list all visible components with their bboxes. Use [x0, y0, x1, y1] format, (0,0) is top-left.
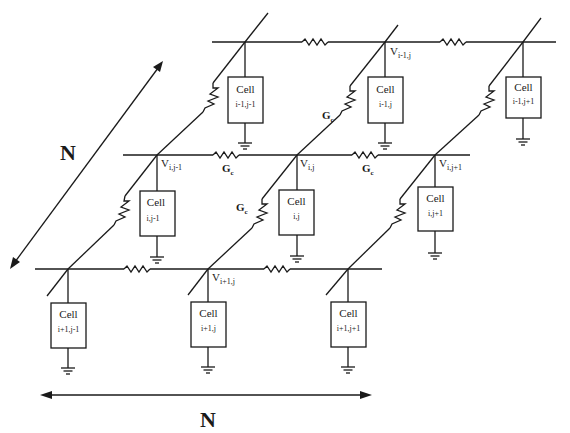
- horizontal-dimension-arrow: [40, 391, 372, 399]
- node-voltage-i+1-j: Vi+1,j: [212, 271, 235, 286]
- svg-text:Gc: Gc: [236, 201, 248, 216]
- ground-icon: [61, 368, 75, 374]
- resistor-icon: [352, 152, 378, 158]
- node-voltage-i-j+1: Vi,j+1: [439, 157, 462, 172]
- svg-text:i+1,j: i+1,j: [201, 324, 216, 333]
- conductance-label-top-diag: Gc: [322, 109, 334, 124]
- cell-grid-diagram: N N: [0, 0, 570, 433]
- conductance-label-lower-diag: Gc: [236, 201, 248, 216]
- resistor-icon: [390, 199, 405, 228]
- diagonal-dimension-arrow: [10, 61, 163, 269]
- svg-text:Cell: Cell: [147, 196, 165, 208]
- svg-text:i-1,j+1: i-1,j+1: [513, 97, 535, 106]
- resistor-icon: [203, 83, 218, 112]
- svg-text:i,j: i,j: [293, 212, 299, 221]
- svg-text:i,j-1: i,j-1: [146, 214, 159, 223]
- ground-icon: [238, 143, 252, 149]
- resistor-icon: [124, 266, 150, 272]
- svg-text:Cell: Cell: [59, 308, 77, 320]
- ground-icon: [290, 256, 304, 262]
- ground-icon: [201, 367, 215, 373]
- svg-text:Cell: Cell: [376, 83, 394, 95]
- node-voltage-i-1-j: Vi-1,j: [390, 45, 411, 60]
- svg-text:Gc: Gc: [362, 162, 374, 177]
- svg-text:Cell: Cell: [199, 307, 217, 319]
- resistor-icon: [479, 86, 494, 115]
- svg-text:i,j+1: i,j+1: [428, 209, 443, 218]
- conductance-label-mid-right: Gc: [362, 162, 374, 177]
- resistor-icon: [264, 266, 290, 272]
- resistor-icon: [114, 196, 129, 225]
- ground-icon: [378, 143, 392, 149]
- resistor-icon: [213, 152, 239, 158]
- resistor-icon: [440, 39, 466, 45]
- svg-text:Gc: Gc: [322, 109, 334, 124]
- ground-icon: [150, 257, 164, 263]
- svg-text:Cell: Cell: [339, 307, 357, 319]
- resistor-icon: [252, 199, 267, 228]
- diagonal-size-label: N: [60, 140, 76, 165]
- svg-text:Cell: Cell: [236, 83, 254, 95]
- svg-text:i-1,j-1: i-1,j-1: [236, 100, 256, 109]
- svg-text:Gc: Gc: [222, 162, 234, 177]
- svg-text:Cell: Cell: [514, 81, 532, 93]
- cell-i+1-j+1: Cell i+1,j+1: [331, 269, 366, 373]
- node-voltage-i-j: Vi,j: [300, 157, 314, 172]
- ground-icon: [341, 367, 355, 373]
- svg-text:Cell: Cell: [426, 192, 444, 204]
- svg-text:i+1,j+1: i+1,j+1: [337, 324, 360, 333]
- column-wire-center: [188, 25, 398, 295]
- ground-icon: [516, 139, 530, 145]
- resistor-icon: [340, 86, 355, 115]
- svg-text:Cell: Cell: [287, 195, 305, 207]
- conductance-label-mid-left: Gc: [222, 162, 234, 177]
- svg-text:i+1,j-1: i+1,j-1: [58, 325, 80, 334]
- horizontal-size-label: N: [200, 407, 216, 432]
- resistor-icon: [302, 39, 328, 45]
- node-voltage-i-j-1: Vi,j-1: [161, 157, 182, 172]
- svg-text:i-1,j: i-1,j: [379, 100, 392, 109]
- ground-icon: [428, 253, 442, 259]
